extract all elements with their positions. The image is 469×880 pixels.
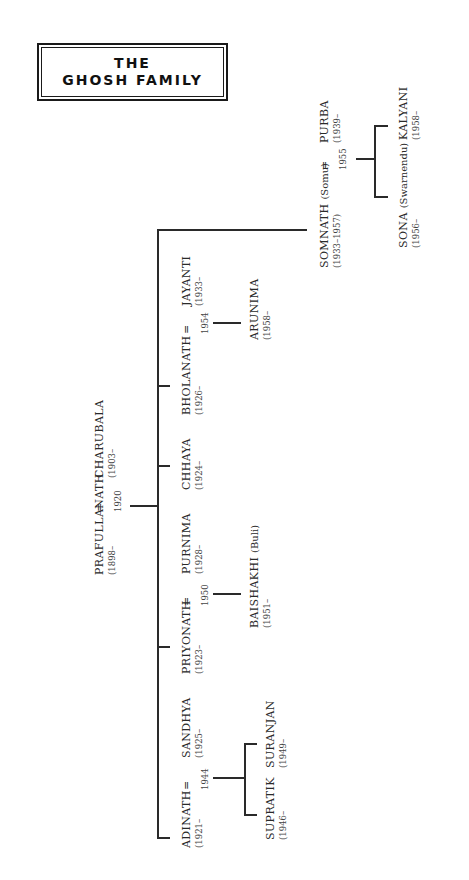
adinath-years: (1921– (193, 790, 205, 848)
generation-2-trunk (157, 229, 159, 838)
somnath-years: (1933–1957) (331, 163, 343, 268)
person-sona: SONA (Swarnendu) (1956– (397, 143, 422, 248)
arunima-years: (1958– (261, 279, 273, 340)
marriage-somnath-purba: = 1955 (318, 148, 350, 170)
baishakhi-alias: (Buli) (249, 525, 260, 553)
somnath-children-bar (374, 125, 376, 197)
kalyani-years: (1958– (410, 87, 422, 140)
chhaya-years: (1924– (193, 438, 205, 490)
prafullanath-marriage-link (130, 505, 157, 507)
supratik-name: SUPRATIK (264, 777, 277, 840)
adinath-branch (157, 837, 170, 839)
bholanath-marriage-link (213, 322, 241, 324)
title-box: THE GHOSH FAMILY (37, 43, 228, 101)
sandhya-name: SANDHYA (180, 697, 193, 758)
suranjan-branch (244, 743, 257, 745)
sona-alias: (Swarnendu) (398, 143, 409, 209)
marriage-symbol: = (318, 148, 331, 170)
sandhya-years: (1925– (193, 697, 205, 758)
somnath-name: SOMNATH (318, 203, 331, 268)
person-priyonath: PRIYONATH (1923– (180, 600, 205, 674)
person-chhaya: CHHAYA (1924– (180, 438, 205, 490)
title-line-2: GHOSH FAMILY (62, 72, 203, 89)
purnima-name: PURNIMA (180, 513, 193, 574)
bholanath-years: (1926– (193, 336, 205, 415)
sona-name: SONA (397, 212, 410, 248)
person-somnath: SOMNATH (Somu) (1933–1957) (318, 163, 343, 268)
suranjan-name: SURANJAN (264, 700, 277, 768)
prafullanath-years: (1898– (106, 473, 118, 575)
purnima-years: (1928– (193, 513, 205, 574)
priyonath-years: (1923– (193, 600, 205, 674)
chhaya-branch (157, 465, 170, 467)
marriage-year: 1950 (200, 584, 210, 606)
marriage-symbol: = (180, 312, 193, 334)
kalyani-name: KALYANI (397, 87, 410, 140)
baishakhi-years: (1951– (261, 525, 273, 628)
person-prafullanath: PRAFULLANATH (1898– (93, 473, 118, 575)
prafullanath-name: PRAFULLANATH (93, 473, 106, 575)
marriage-adinath-sandhya: = 1944 (180, 768, 212, 790)
charubala-years: (1903– (106, 400, 118, 478)
person-purba: PURBA (1939– (318, 100, 343, 143)
bholanath-branch (157, 385, 170, 387)
priyonath-branch (157, 646, 170, 648)
purba-name: PURBA (318, 100, 331, 143)
charubala-name: CHARUBALA (93, 400, 106, 478)
adinath-marriage-link (213, 777, 245, 779)
person-supratik: SUPRATIK (1946– (264, 777, 289, 840)
person-adinath: ADINATH (1921– (180, 790, 205, 848)
person-suranjan: SURANJAN (1949– (264, 700, 289, 768)
marriage-bholanath-jayanti: = 1954 (180, 312, 212, 334)
marriage-year: 1955 (338, 148, 348, 170)
person-baishakhi: BAISHAKHI (Buli) (1951– (248, 525, 273, 628)
marriage-year: 1944 (200, 768, 210, 790)
jayanti-years: (1933– (193, 256, 205, 306)
somnath-marriage-link (356, 158, 375, 160)
somnath-branch (157, 229, 307, 231)
marriage-year: 1954 (200, 312, 210, 334)
person-sandhya: SANDHYA (1925– (180, 697, 205, 758)
person-arunima: ARUNIMA (1958– (248, 279, 273, 340)
priyonath-marriage-link (213, 593, 241, 595)
adinath-children-bar (244, 743, 246, 815)
suranjan-years: (1949– (277, 700, 289, 768)
sona-name-line: SONA (Swarnendu) (397, 143, 410, 248)
baishakhi-name-line: BAISHAKHI (Buli) (248, 525, 261, 628)
jayanti-name: JAYANTI (180, 256, 193, 306)
baishakhi-name: BAISHAKHI (248, 557, 261, 628)
marriage-year: 1920 (113, 490, 123, 512)
chhaya-name: CHHAYA (180, 438, 193, 490)
adinath-name: ADINATH (180, 790, 193, 848)
marriage-symbol: = (93, 490, 106, 512)
somnath-name-line: SOMNATH (Somu) (318, 163, 331, 268)
purba-years: (1939– (331, 100, 343, 143)
person-charubala: CHARUBALA (1903– (93, 400, 118, 478)
person-kalyani: KALYANI (1958– (397, 87, 422, 140)
sona-years: (1956– (410, 143, 422, 248)
bholanath-name: BHOLANATH (180, 336, 193, 415)
supratik-branch (244, 814, 257, 816)
title-inner-frame: THE GHOSH FAMILY (41, 47, 224, 97)
person-jayanti: JAYANTI (1933– (180, 256, 205, 306)
marriage-symbol: = (180, 768, 193, 790)
arunima-name: ARUNIMA (248, 279, 261, 340)
marriage-symbol: = (180, 584, 193, 606)
title-line-1: THE (114, 55, 151, 72)
marriage-prafullanath-charubala: = 1920 (93, 490, 125, 512)
kalyani-branch (374, 125, 388, 127)
person-bholanath: BHOLANATH (1926– (180, 336, 205, 415)
person-purnima: PURNIMA (1928– (180, 513, 205, 574)
priyonath-name: PRIYONATH (180, 600, 193, 674)
sona-branch (374, 196, 388, 198)
marriage-priyonath-purnima: = 1950 (180, 584, 212, 606)
supratik-years: (1946– (277, 777, 289, 840)
